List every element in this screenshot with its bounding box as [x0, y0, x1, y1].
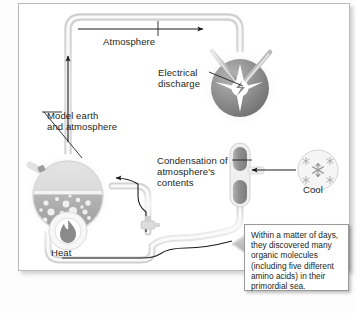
label-condensation: Condensation of atmosphere's contents: [157, 155, 228, 188]
condenser-fill-bottom: [233, 180, 247, 204]
label-model-earth: Model earth and atmosphere: [47, 110, 117, 132]
stopcock-handle: [145, 216, 151, 221]
stopcock-body: [141, 221, 155, 229]
label-electrical-discharge: Electrical discharge: [158, 67, 200, 89]
heat-source: [49, 212, 87, 250]
condenser: [230, 143, 264, 207]
label-heat: Heat: [51, 247, 71, 258]
stopcock-valve: [141, 216, 160, 229]
electrical-discharge-chamber: [204, 51, 276, 124]
label-cool: Cool: [303, 184, 323, 195]
stopcock-spout: [155, 223, 160, 227]
label-atmosphere: Atmosphere: [103, 36, 155, 47]
figure-canvas: Atmosphere Electrical discharge Model ea…: [0, 0, 356, 313]
callout-text: Within a matter of days, they discovered…: [251, 230, 342, 291]
condenser-fill-top: [233, 147, 247, 171]
callout-box: Within a matter of days, they discovered…: [244, 224, 349, 291]
